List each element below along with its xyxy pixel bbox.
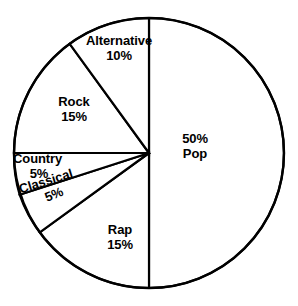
slice-label-country-name: Country bbox=[13, 151, 77, 166]
slice-label-rock-value: 15% bbox=[44, 109, 104, 124]
slice-label-rap-value: 15% bbox=[92, 237, 148, 252]
slice-label-alternative-value: 10% bbox=[78, 48, 160, 63]
slice-label-pop-name: Pop bbox=[168, 146, 222, 161]
slice-label-rap-name: Rap bbox=[92, 222, 148, 237]
pie-chart-figure: Alternative 10% Rock 15% Country 5% Clas… bbox=[0, 0, 298, 306]
slice-label-rock-name: Rock bbox=[44, 94, 104, 109]
slice-label-pop: 50% Pop bbox=[168, 131, 222, 161]
slice-label-pop-value: 50% bbox=[168, 131, 222, 146]
slice-label-alternative: Alternative 10% bbox=[78, 33, 160, 63]
slice-label-rap: Rap 15% bbox=[92, 222, 148, 252]
slice-label-rock: Rock 15% bbox=[44, 94, 104, 124]
slice-label-alternative-name: Alternative bbox=[78, 33, 160, 48]
